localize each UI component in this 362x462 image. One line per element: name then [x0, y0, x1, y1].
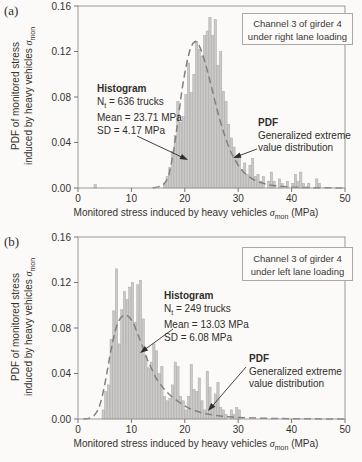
histogram-bar: [115, 269, 117, 419]
channel-info-line1: Channel 3 of girder 4: [243, 252, 352, 265]
histogram-bar: [193, 74, 195, 188]
histogram-annotation-title: Histogram: [164, 290, 249, 303]
histogram-bar: [129, 287, 131, 419]
y-tick-label: 0.16: [52, 232, 72, 243]
x-tick-label: 30: [233, 424, 245, 435]
histogram-bar: [169, 399, 171, 419]
pdf-annotation-title: PDF: [249, 353, 342, 366]
histogram-bar: [212, 36, 214, 188]
histogram-bar: [300, 172, 302, 188]
x-tick-label: 0: [75, 193, 81, 204]
histogram-bar: [195, 41, 197, 188]
channel-info-line1: Channel 3 of girder 4: [243, 17, 352, 30]
histogram-bar: [316, 179, 318, 188]
histogram-bar: [225, 102, 227, 188]
histogram-bar: [257, 174, 259, 188]
histogram-bar: [177, 367, 179, 419]
histogram-bar: [217, 65, 219, 188]
histogram-bar: [185, 410, 187, 419]
histogram-bar: [268, 181, 270, 188]
pdf-annotation-line2: Generalized extreme: [258, 130, 351, 143]
histogram-bar: [161, 367, 163, 419]
y-tick-label: 0.04: [52, 137, 72, 148]
histogram-bar: [233, 147, 235, 188]
histogram-bar: [131, 283, 133, 420]
x-tick-label: 20: [179, 193, 191, 204]
histogram-bar: [228, 124, 230, 188]
histogram-bar: [179, 396, 181, 419]
sd-line: SD = 6.08 MPa: [164, 332, 249, 345]
histogram-bar: [166, 401, 168, 419]
x-tick-label: 0: [75, 424, 81, 435]
histogram-bar: [145, 356, 147, 419]
sigma-subscript: mon: [275, 213, 289, 220]
x-tick-label: 50: [339, 424, 351, 435]
truck-count-line: Nt = 249 trucks: [164, 303, 249, 320]
y-tick-label: 0.12: [52, 46, 72, 57]
histogram-bar: [142, 319, 144, 419]
histogram-bar: [201, 56, 203, 188]
histogram-bar: [118, 344, 120, 419]
x-axis-label: Monitored stress induced by heavy vehicl…: [30, 207, 362, 220]
histogram-bar: [102, 410, 104, 419]
pdf-annotation-line3: value distribution: [249, 378, 342, 391]
y-tick-label: 0.12: [52, 277, 72, 288]
pdf-annotation: PDF Generalized extreme value distributi…: [258, 117, 351, 155]
y-tick-label: 0.08: [52, 323, 72, 334]
y-tick-label: 0.00: [52, 414, 72, 425]
channel-info-box: Channel 3 of girder 4 under left lane lo…: [242, 247, 353, 281]
histogram-bar: [244, 163, 246, 188]
histogram-bar: [139, 280, 141, 419]
y-tick-label: 0.04: [52, 368, 72, 379]
histogram-bar: [166, 177, 168, 188]
histogram-annotation: Histogram Nt = 636 trucks Mean = 23.71 M…: [97, 83, 182, 137]
histogram-bar: [137, 285, 139, 419]
histogram-bar: [107, 385, 109, 419]
histogram-bar: [174, 136, 176, 188]
histogram-bar: [273, 181, 275, 188]
histogram-bar: [254, 177, 256, 188]
pdf-annotation-line3: value distribution: [258, 142, 351, 155]
histogram-bar: [236, 408, 238, 419]
histogram-bar: [241, 170, 243, 188]
histogram-bar: [246, 174, 248, 188]
histogram-bar: [190, 92, 192, 188]
histogram-bar: [147, 368, 149, 419]
channel-info-line2: under left lane loading: [243, 265, 352, 278]
histogram-bar: [182, 401, 184, 419]
histogram-bar: [222, 410, 224, 419]
histogram-bar: [153, 344, 155, 419]
histogram-bar: [201, 401, 203, 419]
histogram-bar: [163, 396, 165, 419]
mean-line: Mean = 13.03 MPa: [164, 319, 249, 332]
sd-line: SD = 4.17 MPa: [97, 125, 182, 138]
histogram-bar: [171, 385, 173, 419]
histogram-bar: [294, 174, 296, 188]
annotation-arrow-line: [239, 149, 257, 156]
pdf-annotation-title: PDF: [258, 117, 351, 130]
histogram-bar: [134, 322, 136, 419]
y-tick-label: 0.08: [52, 92, 72, 103]
histogram-bar: [220, 408, 222, 419]
histogram-bar: [121, 310, 123, 419]
truck-count-line: Nt = 636 trucks: [97, 96, 182, 113]
histogram-bar: [190, 364, 192, 419]
histogram-bar: [94, 185, 96, 188]
x-tick-label: 50: [339, 193, 351, 204]
histogram-bar: [238, 154, 240, 188]
histogram-bar: [126, 300, 128, 419]
histogram-bar: [222, 91, 224, 188]
histogram-bar: [252, 158, 254, 188]
x-tick-label: 10: [126, 193, 138, 204]
sigma-subscript: mon: [275, 444, 289, 451]
histogram-bar: [278, 179, 280, 188]
mean-line: Mean = 23.71 MPa: [97, 112, 182, 125]
histogram-bar: [113, 311, 115, 419]
histogram-bar: [195, 392, 197, 419]
histogram-bar: [185, 95, 187, 188]
pdf-annotation-line2: Generalized extreme: [249, 366, 342, 379]
histogram-bar: [209, 17, 211, 188]
histogram-bar: [158, 374, 160, 420]
histogram-bar: [193, 389, 195, 419]
panel-b: (b) PDF of monitored stress induced by h…: [0, 231, 362, 462]
